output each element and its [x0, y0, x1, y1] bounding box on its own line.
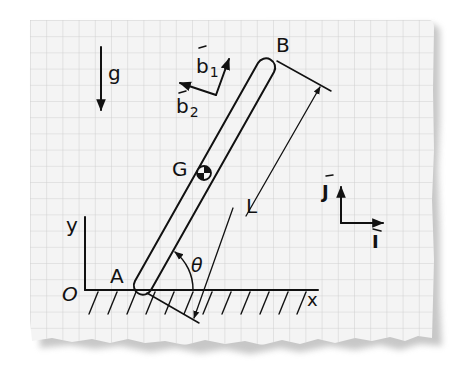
- diagram-canvas: g b1 b2 G B A L θ: [0, 0, 466, 367]
- point-b-label: B: [276, 33, 290, 57]
- center-of-mass-icon: [197, 166, 211, 180]
- angle-label: θ: [191, 254, 203, 276]
- diagram-svg: g b1 b2 G B A L θ: [0, 0, 466, 367]
- axis-x-label: x: [307, 289, 318, 310]
- paper-grid: [30, 20, 434, 345]
- point-a-label: A: [110, 264, 124, 288]
- axis-y-label: y: [66, 213, 78, 237]
- j-overarrow-icon: [326, 175, 333, 176]
- unit-j-label: J: [320, 181, 329, 202]
- unit-i-label: I: [372, 231, 379, 252]
- point-g-label: G: [172, 157, 188, 181]
- origin-label: O: [62, 282, 78, 306]
- gravity-label: g: [108, 61, 121, 85]
- length-label: L: [246, 194, 258, 218]
